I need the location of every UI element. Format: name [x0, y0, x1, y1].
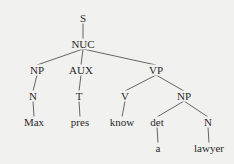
node-NP1: NP	[29, 65, 45, 76]
node-Max: Max	[23, 117, 45, 128]
node-AUX: AUX	[68, 65, 94, 76]
node-know: know	[109, 117, 135, 128]
node-N1: N	[28, 91, 38, 102]
edge-NUC-VP	[83, 49, 156, 65]
node-lawyer: lawyer	[193, 143, 225, 154]
node-T: T	[75, 91, 84, 102]
node-S: S	[79, 13, 87, 24]
node-det: det	[149, 117, 164, 128]
edge-VP-V	[125, 75, 156, 91]
node-NUC: NUC	[70, 39, 95, 50]
node-N2: N	[203, 117, 213, 128]
tree-edges	[0, 0, 234, 164]
node-a: a	[155, 143, 162, 154]
node-V: V	[120, 91, 130, 102]
node-VP: VP	[148, 65, 164, 76]
node-NP2: NP	[176, 91, 192, 102]
node-pres: pres	[70, 117, 90, 128]
